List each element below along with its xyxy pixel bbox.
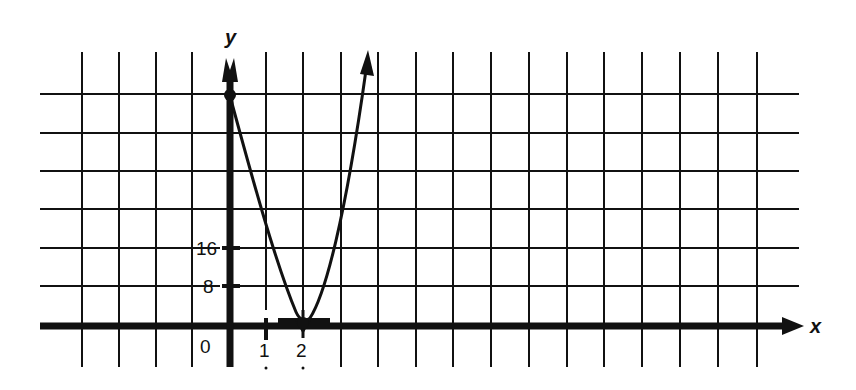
y-tick-label-16: 16 — [196, 238, 217, 259]
parabola-graph: y x 0 1 2 16 8 — [0, 0, 856, 390]
parabola-curve — [224, 50, 374, 334]
grid — [40, 52, 799, 367]
x-axis — [40, 310, 804, 370]
x-axis-label: x — [809, 315, 822, 337]
y-axis-label: y — [224, 26, 237, 48]
y-tick-label-8: 8 — [203, 276, 214, 297]
x-tick-label-1: 1 — [259, 340, 270, 361]
origin-label: 0 — [200, 336, 211, 357]
x-tick-label-2: 2 — [296, 340, 307, 361]
y-intercept-point — [224, 89, 236, 101]
